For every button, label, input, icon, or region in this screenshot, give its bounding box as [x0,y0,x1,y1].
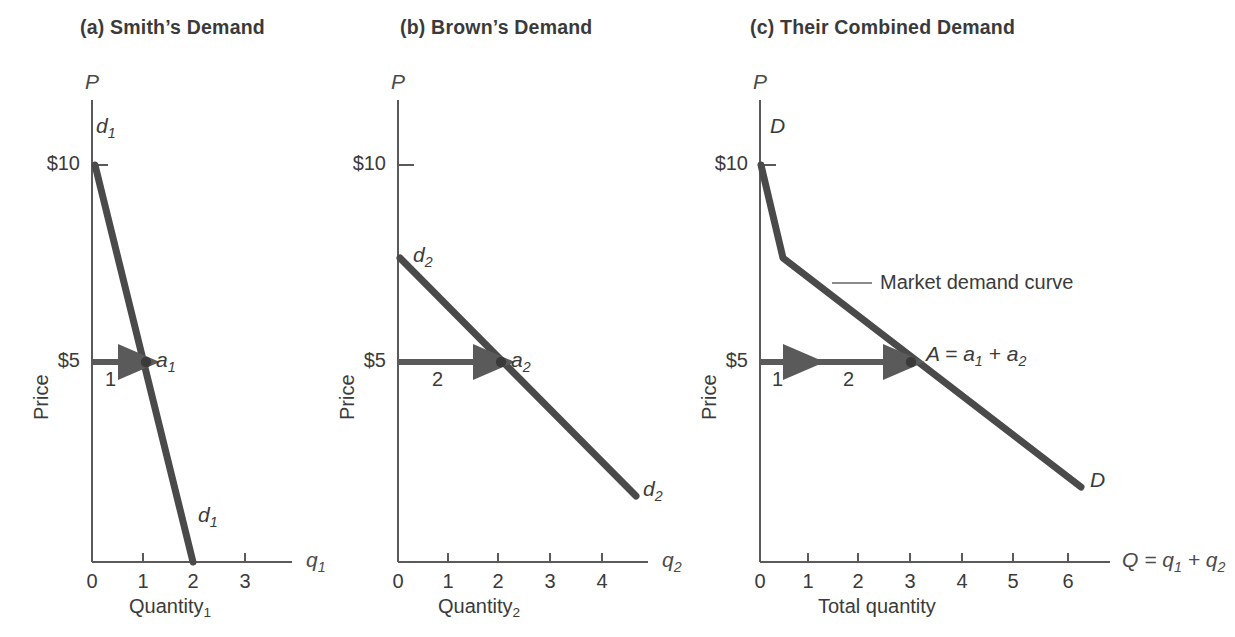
panel-c-graph [760,100,1110,562]
panel-c-point-label-sub1: 1 [975,353,983,369]
demand-curves-figure: (a) Smith’s Demand (b) Brown’s Demand (c… [0,0,1235,637]
panel-a-point-label-sub: 1 [168,359,176,375]
panel-b-price-label-5: $5 [318,349,386,372]
panel-c-price-label-5: $5 [680,349,748,372]
panel-a-curve-label-top: d1 [96,114,116,138]
panel-c-xtick-label-2: 2 [838,570,878,593]
panel-c-y-axis-symbol: P [753,70,767,94]
panel-a-demand-curve-d1 [95,165,193,562]
panel-b-xtick-label-3: 3 [530,570,570,593]
panel-c-point-A [906,357,916,367]
panel-c-price-label-10: $10 [680,152,748,175]
panel-c-point-label-sub2: 2 [1018,353,1026,369]
panel-a-x-axis-symbol-text: q [306,548,318,571]
panel-a-origin-label: 0 [72,570,112,593]
panel-c-xtick-label-4: 4 [942,570,982,593]
panel-b-x-axis-caption: Quantity2 [438,595,520,618]
panel-b-x-axis-symbol-text: q [662,548,674,571]
panel-b-graph [398,100,648,562]
panel-a-y-axis-caption: Price [30,374,53,420]
panel-b-x-axis-caption-text: Quantity [438,595,512,617]
panel-a-curve-label-top-sub: 1 [108,125,116,141]
panel-a-price-label-5: $5 [12,349,80,372]
panel-b-curve-label-top-text: d [413,243,425,266]
panel-b-curve-label-top-sub: 2 [425,254,433,270]
panel-b-x-axis-symbol: q2 [662,548,682,572]
panel-b-price-label-10: $10 [318,152,386,175]
panel-b-point-label-a2: a2 [511,348,531,372]
panel-a-x-axis-caption: Quantity1 [129,595,211,618]
panel-b-point-label-text: a [511,348,523,371]
panel-b-point-a2 [496,357,506,367]
panel-a-x-axis-caption-sub: 1 [203,605,211,620]
panel-a-xtick-label-3: 3 [225,570,265,593]
panel-c-market-demand-curve-D [761,165,1081,487]
panel-c-origin-label: 0 [740,570,780,593]
panel-b-curve-label-bottom-sub: 2 [655,488,663,504]
panel-a-point-label-text: a [156,348,168,371]
panel-b-x-axis-caption-sub: 2 [512,605,520,620]
panel-a-xtick-label-1: 1 [123,570,163,593]
panel-b-y-axis-symbol: P [391,70,405,94]
panel-c-xtick-label-6: 6 [1048,570,1088,593]
panel-c-point-label-mid: + a [983,342,1019,365]
panel-a-title: (a) Smith’s Demand [80,16,265,39]
panel-c-curve-label-top: D [770,114,785,138]
panel-c-arrow-label-1: 1 [772,368,783,391]
panel-b-y-axis-caption: Price [336,374,359,420]
panel-a-arrow-label-1: 1 [105,368,116,391]
panel-b-curve-label-bottom: d2 [643,477,663,501]
panel-c-xtick-label-1: 1 [788,570,828,593]
panel-a-price-label-10: $10 [12,152,80,175]
panel-c-point-label-A: A = a1 + a2 [926,342,1026,366]
panel-a-curve-label-bottom-sub: 1 [210,514,218,530]
panel-c-x-axis-symbol: Q = q1 + q2 [1122,548,1225,572]
panel-c-x-axis-caption: Total quantity [818,595,936,618]
panel-b-title: (b) Brown’s Demand [400,16,592,39]
panel-b-point-label-sub: 2 [523,359,531,375]
panel-c-point-label-text: A = a [926,342,975,365]
panel-a-curve-label-bottom-text: d [198,503,210,526]
panel-c-x-axis-symbol-text: Q = q [1122,548,1174,571]
panel-c-title: (c) Their Combined Demand [750,16,1015,39]
panel-a-x-axis-symbol: q1 [306,548,326,572]
figure-canvas [0,0,1235,637]
panel-a-point-a1 [141,357,151,367]
panel-a-xtick-label-2: 2 [173,570,213,593]
panel-a-graph [92,100,292,562]
panel-b-curve-label-top: d2 [413,243,433,267]
panel-b-xtick-label-1: 1 [428,570,468,593]
panel-c-xtick-label-3: 3 [890,570,930,593]
panel-a-curve-label-bottom: d1 [198,503,218,527]
panel-a-curve-label-top-text: d [96,114,108,137]
panel-c-market-demand-annotation: Market demand curve [880,271,1073,294]
panel-c-x-axis-symbol-sub: 1 [1174,559,1182,575]
panel-a-x-axis-caption-text: Quantity [129,595,203,617]
panel-a-point-label-a1: a1 [156,348,176,372]
panel-c-y-axis-caption: Price [698,374,721,420]
panel-c-xtick-label-5: 5 [993,570,1033,593]
panel-b-arrow-label-2: 2 [432,368,443,391]
panel-a-y-axis-symbol: P [85,70,99,94]
panel-b-x-axis-symbol-sub: 2 [674,559,682,575]
panel-b-xtick-label-2: 2 [478,570,518,593]
panel-c-curve-label-bottom: D [1090,468,1105,492]
panel-b-xtick-label-4: 4 [582,570,622,593]
panel-b-origin-label: 0 [378,570,418,593]
panel-a-x-axis-symbol-sub: 1 [318,559,326,575]
panel-c-x-axis-symbol-sub2: 2 [1218,559,1226,575]
panel-b-curve-label-bottom-text: d [643,477,655,500]
panel-c-arrow-label-2: 2 [843,368,854,391]
panel-c-x-axis-symbol-mid: + q [1182,548,1218,571]
